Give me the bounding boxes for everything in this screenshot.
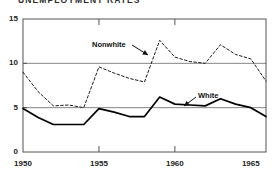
y-tick-label-0: 0 bbox=[2, 148, 18, 156]
nonwhite-arrowhead-icon bbox=[142, 50, 148, 55]
series-label-nonwhite: Nonwhite bbox=[92, 41, 126, 49]
gridlines-group bbox=[23, 63, 266, 107]
x-tick-label-1955: 1955 bbox=[84, 160, 114, 168]
annotation-leaders-group bbox=[132, 45, 196, 106]
y-tick-label-15: 15 bbox=[2, 15, 18, 23]
x-tick-label-1950: 1950 bbox=[8, 160, 38, 168]
x-tick-label-1960: 1960 bbox=[160, 160, 190, 168]
x-tick-label-1965: 1965 bbox=[236, 160, 266, 168]
series-label-white: White bbox=[198, 92, 218, 100]
y-tick-label-5: 5 bbox=[2, 104, 18, 112]
y-tick-label-10: 10 bbox=[2, 59, 18, 67]
x-tick-marks-group bbox=[23, 19, 175, 152]
chart-figure: UNEMPLOYMENT RATES 051015 19501955196019… bbox=[0, 0, 276, 185]
plot-canvas bbox=[0, 0, 276, 185]
axes-frame-group bbox=[23, 19, 266, 152]
plot-frame bbox=[23, 19, 266, 152]
series-line-nonwhite bbox=[23, 40, 266, 107]
series-line-white bbox=[23, 97, 266, 124]
